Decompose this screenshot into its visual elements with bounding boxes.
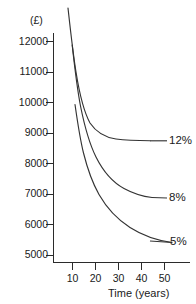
- x-tick-label-50: 50: [154, 273, 176, 284]
- series-label-8-percent: 8%: [169, 191, 186, 203]
- y-tick-label-5000: 5000: [4, 249, 48, 260]
- x-axis-title: Time (years): [108, 287, 169, 299]
- x-tick-label-40: 40: [131, 273, 153, 284]
- x-tick-label-30: 30: [108, 273, 130, 284]
- y-tick-label-11000: 11000: [4, 66, 48, 77]
- leader-line-5: [150, 241, 172, 243]
- y-tick-label-7000: 7000: [4, 188, 48, 199]
- series-label-5-percent: 5%: [170, 235, 187, 247]
- x-tick-label-10: 10: [62, 273, 84, 284]
- leader-line-8: [152, 198, 167, 199]
- curve-rate-5: [75, 105, 172, 243]
- axes-group: [54, 33, 191, 263]
- curve-rate-12: [68, 8, 150, 141]
- x-tick-marks: [73, 263, 165, 271]
- y-tick-label-6000: 6000: [4, 219, 48, 230]
- y-tick-label-9000: 9000: [4, 127, 48, 138]
- x-tick-label-20: 20: [85, 273, 107, 284]
- y-tick-label-8000: 8000: [4, 158, 48, 169]
- series-label-12-percent: 12%: [169, 134, 192, 146]
- y-axis-unit-label: (£): [30, 14, 43, 26]
- y-tick-label-10000: 10000: [4, 97, 48, 108]
- curve-rate-8: [72, 45, 152, 198]
- y-tick-label-12000: 12000: [4, 36, 48, 47]
- interest-rate-decay-chart: (£) 12000 11000 10000 9000 8000 7000 600…: [0, 0, 196, 304]
